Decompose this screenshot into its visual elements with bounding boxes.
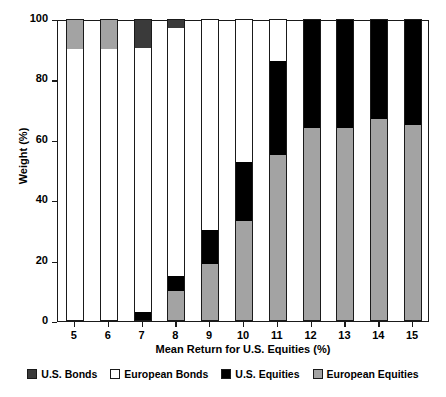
chart-figure: Weight (%) 020406080100 5678910111213141… bbox=[0, 0, 446, 397]
x-tick-line bbox=[175, 322, 176, 327]
bar-stack[interactable] bbox=[100, 19, 118, 321]
bar-segment[interactable] bbox=[235, 221, 253, 321]
x-tick-line bbox=[209, 322, 210, 327]
bar-segment[interactable] bbox=[201, 230, 219, 263]
x-tick-line bbox=[378, 322, 379, 327]
bar-segment[interactable] bbox=[201, 19, 219, 230]
bar-segment[interactable] bbox=[100, 49, 118, 321]
x-tick-line bbox=[344, 322, 345, 327]
bar-segment[interactable] bbox=[167, 28, 185, 276]
x-tick-line bbox=[243, 322, 244, 327]
legend-swatch-icon bbox=[27, 369, 37, 379]
bar-segment[interactable] bbox=[167, 291, 185, 321]
bar-segment[interactable] bbox=[269, 155, 287, 321]
x-tick-label: 10 bbox=[229, 329, 257, 341]
legend-swatch-icon bbox=[110, 369, 120, 379]
chart-legend: U.S. BondsEuropean BondsU.S. EquitiesEur… bbox=[0, 368, 446, 380]
x-tick-line bbox=[277, 322, 278, 327]
legend-label: European Equities bbox=[327, 368, 419, 380]
y-tick: 80 bbox=[0, 80, 57, 81]
x-tick-label: 5 bbox=[60, 329, 88, 341]
bar-segment[interactable] bbox=[303, 19, 321, 128]
y-tick-label: 60 bbox=[36, 133, 48, 145]
bar-stack[interactable] bbox=[235, 19, 253, 321]
bar-stack[interactable] bbox=[336, 19, 354, 321]
bar-segment[interactable] bbox=[66, 49, 84, 321]
legend-swatch-icon bbox=[221, 369, 231, 379]
bar-stack[interactable] bbox=[201, 19, 219, 321]
legend-label: U.S. Equities bbox=[235, 368, 299, 380]
y-tick-label: 100 bbox=[30, 12, 48, 24]
bar-segment[interactable] bbox=[167, 19, 185, 28]
bar-stack[interactable] bbox=[134, 19, 152, 321]
bar-segment[interactable] bbox=[167, 276, 185, 291]
y-tick-line bbox=[52, 322, 57, 323]
bar-stack[interactable] bbox=[370, 19, 388, 321]
x-tick-line bbox=[311, 322, 312, 327]
bar-segment[interactable] bbox=[134, 19, 152, 48]
bar-segment[interactable] bbox=[235, 19, 253, 162]
legend-item[interactable]: European Equities bbox=[313, 368, 419, 380]
x-tick-line bbox=[412, 322, 413, 327]
x-tick-label: 14 bbox=[364, 329, 392, 341]
y-tick-label: 80 bbox=[36, 72, 48, 84]
bar-segment[interactable] bbox=[336, 19, 354, 128]
bar-segment[interactable] bbox=[134, 312, 152, 321]
bar-segment[interactable] bbox=[134, 48, 152, 312]
x-tick-label: 12 bbox=[297, 329, 325, 341]
x-axis-title: Mean Return for U.S. Equities (%) bbox=[57, 343, 429, 355]
y-tick-label: 20 bbox=[36, 254, 48, 266]
y-tick: 0 bbox=[0, 322, 57, 323]
y-tick: 20 bbox=[0, 262, 57, 263]
x-tick-label: 13 bbox=[330, 329, 358, 341]
bar-segment[interactable] bbox=[235, 162, 253, 221]
bar-stack[interactable] bbox=[269, 19, 287, 321]
y-tick: 100 bbox=[0, 20, 57, 21]
bar-segment[interactable] bbox=[100, 19, 118, 49]
legend-item[interactable]: U.S. Bonds bbox=[27, 368, 97, 380]
x-tick-label: 7 bbox=[128, 329, 156, 341]
bar-segment[interactable] bbox=[303, 128, 321, 321]
legend-swatch-icon bbox=[313, 369, 323, 379]
x-tick-label: 9 bbox=[195, 329, 223, 341]
legend-label: U.S. Bonds bbox=[41, 368, 97, 380]
y-tick: 60 bbox=[0, 141, 57, 142]
bar-stack[interactable] bbox=[66, 19, 84, 321]
bar-segment[interactable] bbox=[66, 19, 84, 49]
x-tick-line bbox=[108, 322, 109, 327]
x-tick-label: 8 bbox=[161, 329, 189, 341]
bar-segment[interactable] bbox=[201, 264, 219, 321]
x-tick-line bbox=[74, 322, 75, 327]
x-tick-label: 6 bbox=[94, 329, 122, 341]
legend-item[interactable]: U.S. Equities bbox=[221, 368, 299, 380]
bar-stack[interactable] bbox=[303, 19, 321, 321]
x-tick-label: 15 bbox=[398, 329, 426, 341]
legend-item[interactable]: European Bonds bbox=[110, 368, 208, 380]
y-tick-label: 40 bbox=[36, 193, 48, 205]
legend-label: European Bonds bbox=[124, 368, 208, 380]
plot-frame bbox=[57, 20, 429, 322]
bar-segment[interactable] bbox=[404, 19, 422, 125]
plot-area bbox=[58, 21, 428, 321]
bar-segment[interactable] bbox=[404, 125, 422, 321]
y-tick: 40 bbox=[0, 201, 57, 202]
bar-segment[interactable] bbox=[269, 61, 287, 155]
bar-segment[interactable] bbox=[269, 19, 287, 61]
x-tick-line bbox=[142, 322, 143, 327]
bar-stack[interactable] bbox=[167, 19, 185, 321]
bar-segment[interactable] bbox=[370, 119, 388, 321]
y-tick-label: 0 bbox=[42, 314, 48, 326]
bar-stack[interactable] bbox=[404, 19, 422, 321]
bar-segment[interactable] bbox=[336, 128, 354, 321]
y-axis-title: Weight (%) bbox=[17, 86, 29, 226]
bar-segment[interactable] bbox=[370, 19, 388, 119]
x-tick-label: 11 bbox=[263, 329, 291, 341]
